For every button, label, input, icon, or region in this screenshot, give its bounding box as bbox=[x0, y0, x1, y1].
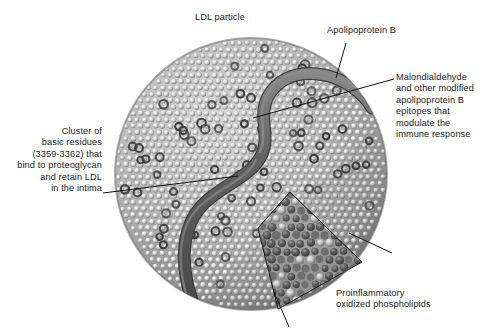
figure-canvas: LDL particle Apolipoprotein B Malondiald… bbox=[0, 0, 491, 331]
label-malondialdehyde-epitopes: Malondialdehyde and other modified apoli… bbox=[396, 72, 491, 140]
label-apolipoprotein-b: Apolipoprotein B bbox=[327, 25, 396, 36]
label-basic-residue-cluster: Cluster of basic residues (3359-3362) th… bbox=[2, 126, 102, 194]
label-oxidized-phospholipids: Proinflammatory oxidized phospholipids bbox=[336, 288, 486, 311]
label-ldl-particle: LDL particle bbox=[195, 12, 245, 23]
